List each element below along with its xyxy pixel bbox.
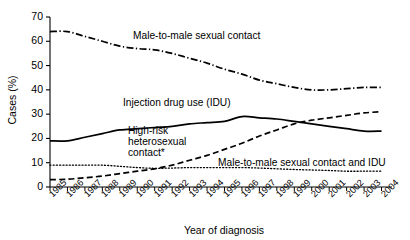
series-line-1 (50, 116, 382, 141)
annotation-injection-drug-use: Injection drug use (IDU) (123, 97, 231, 109)
y-tick-marks (46, 17, 50, 187)
annotation-male-to-male-sexual-contact: Male-to-male sexual contact (133, 30, 260, 42)
chart-figure: Cases (%) Year of diagnosis 010203040506… (0, 0, 410, 240)
x-tick-marks (50, 187, 382, 191)
annotation-high-risk-heterosexual-contact-line1: High-risk (128, 125, 168, 137)
annotation-male-to-male-sexual-contact-and-idu: Male-to-male sexual contact and IDU (218, 157, 386, 169)
annotation-high-risk-heterosexual-contact-line2: heterosexual (128, 136, 186, 148)
annotation-high-risk-heterosexual-contact-line3: contact* (128, 147, 165, 159)
